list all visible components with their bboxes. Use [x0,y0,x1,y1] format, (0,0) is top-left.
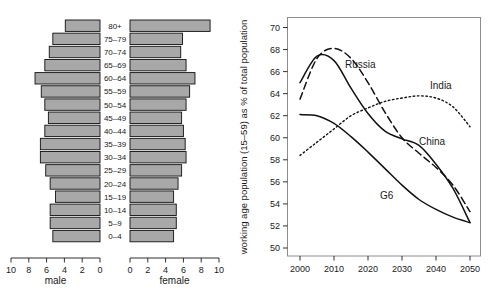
y-tick-label: 60 [270,133,280,143]
x-tick-label: 2050 [460,264,480,274]
pyramid-bar-female [130,217,176,228]
y-axis-tick-labels: 5052545658606264666870 [270,23,280,254]
pyramid-bar-male [46,165,100,176]
male-bars-group [35,20,100,242]
y-tick-label: 64 [270,89,280,99]
line-chart-frame [288,18,481,257]
figure-container: 80+75–7970–7465–6960–6455–5950–5445–4940… [0,0,498,293]
female-tick-label: 0 [127,265,132,275]
male-tick-label: 4 [62,265,67,275]
male-tick-label: 6 [44,265,49,275]
pyramid-bar-female [130,178,178,189]
pyramid-bar-female [130,20,210,31]
pyramid-bar-male [41,86,100,97]
y-tick-label: 52 [270,221,280,231]
y-tick-label: 66 [270,67,280,77]
age-group-label: 70–74 [104,48,127,57]
male-tick-label: 2 [80,265,85,275]
y-tick-label: 68 [270,45,280,55]
working-age-line-chart-panel: 5052545658606264666870 20002010202020302… [238,18,481,275]
y-tick-label: 62 [270,111,280,121]
pyramid-bar-female [130,230,174,241]
age-group-label: 35–39 [104,140,127,149]
pyramid-bar-male [45,125,100,136]
female-tick-label: 6 [181,265,186,275]
x-axis-tickmarks [300,256,470,261]
series-label-china: China [419,136,446,147]
female-tick-label: 10 [214,265,224,275]
pyramid-bar-female [130,33,183,44]
x-axis-tick-labels: 200020102020203020402050 [290,264,480,274]
y-tick-label: 56 [270,177,280,187]
x-tick-label: 2030 [392,264,412,274]
pyramid-bar-female [130,73,195,84]
y-axis-tickmarks [283,28,288,249]
age-group-label: 55–59 [104,87,127,96]
pyramid-bar-male [45,99,100,110]
age-group-label: 65–69 [104,61,127,70]
age-group-label: 40–44 [104,127,127,136]
age-group-label: 5–9 [108,219,122,228]
age-group-label: 15–19 [104,193,127,202]
female-tickmarks [130,258,219,263]
pyramid-bar-male [50,204,100,215]
male-tickmarks [11,258,100,263]
population-pyramid-panel: 80+75–7970–7465–6960–6455–5950–5445–4940… [6,20,224,286]
age-group-label: 10–14 [104,206,127,215]
x-tick-label: 2020 [358,264,378,274]
pyramid-bar-male [65,20,100,31]
pyramid-bar-female [130,86,190,97]
pyramid-bar-male [56,191,101,202]
age-group-label: 0–4 [108,232,122,241]
series-label-russia: Russia [345,59,376,70]
male-x-axis: 1086420 male [6,258,103,286]
age-group-label: 75–79 [104,35,127,44]
pyramid-bar-male [50,178,100,189]
pyramid-bar-female [130,138,185,149]
pyramid-bar-male [40,152,100,163]
pyramid-bar-male [45,59,100,70]
y-axis-title: working age population (15–59) as % of t… [238,20,249,256]
age-group-label: 50–54 [104,101,127,110]
female-tick-labels: 0246810 [127,265,224,275]
pyramid-bar-female [130,112,182,123]
pyramid-bar-female [130,204,176,215]
male-tick-labels: 1086420 [6,265,103,275]
pyramid-bar-female [130,125,183,136]
series-label-g6: G6 [380,190,394,201]
figure-svg: 80+75–7970–7465–6960–6455–5950–5445–4940… [0,0,498,293]
age-group-label: 80+ [108,22,122,31]
female-x-axis: 0246810 female [127,258,224,286]
y-tick-label: 70 [270,23,280,33]
pyramid-bar-female [130,46,181,57]
pyramid-bar-male [53,33,100,44]
y-tick-label: 58 [270,155,280,165]
pyramid-bar-female [130,99,186,110]
female-tick-label: 8 [199,265,204,275]
male-tick-label: 8 [26,265,31,275]
pyramid-bar-male [40,138,100,149]
x-tick-label: 2040 [426,264,446,274]
age-group-label: 25–29 [104,166,127,175]
pyramid-bar-male [48,112,100,123]
pyramid-bar-female [130,165,182,176]
male-tick-label: 10 [6,265,16,275]
age-group-labels: 80+75–7970–7465–6960–6455–5950–5445–4940… [104,22,127,241]
female-axis-title: female [159,275,189,286]
y-tick-label: 50 [270,243,280,253]
female-tick-label: 2 [145,265,150,275]
age-group-label: 45–49 [104,114,127,123]
series-label-india: India [430,80,452,91]
x-tick-label: 2010 [324,264,344,274]
x-tick-label: 2000 [290,264,310,274]
pyramid-bar-male [50,217,100,228]
pyramid-bar-female [130,59,186,70]
pyramid-bar-male [53,230,100,241]
age-group-label: 20–24 [104,180,127,189]
age-group-label: 30–34 [104,153,127,162]
pyramid-bar-female [130,152,186,163]
pyramid-bar-female [130,191,174,202]
male-tick-label: 0 [97,265,102,275]
female-bars-group [130,20,210,242]
pyramid-bar-male [35,73,100,84]
